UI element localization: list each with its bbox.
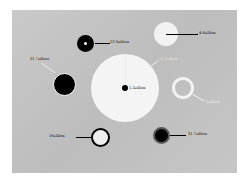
- bubble-center-dot: [122, 85, 128, 91]
- leader-line: [95, 43, 110, 44]
- label-2: 4.6zillion: [199, 32, 216, 36]
- leader-line: [125, 55, 126, 88]
- bubble-1-dot: [84, 42, 87, 45]
- label-upper-right: 11.1zillion: [159, 58, 178, 62]
- label-3: 21.7zillion: [30, 58, 49, 62]
- bubble-3: [53, 73, 76, 96]
- label-center: 1.2zillion: [129, 87, 146, 91]
- label-1: 13.9zillion: [110, 41, 129, 45]
- label-7: 21.7zillion: [188, 133, 207, 137]
- bubble-5: [172, 77, 194, 99]
- leader-line: [76, 137, 91, 138]
- leader-line: [166, 34, 198, 35]
- leader-line: [170, 135, 186, 136]
- bubble-7: [153, 127, 170, 144]
- bubble-6: [91, 128, 110, 147]
- label-5: 1zillion: [206, 101, 219, 105]
- label-6: 16zillion: [49, 135, 65, 139]
